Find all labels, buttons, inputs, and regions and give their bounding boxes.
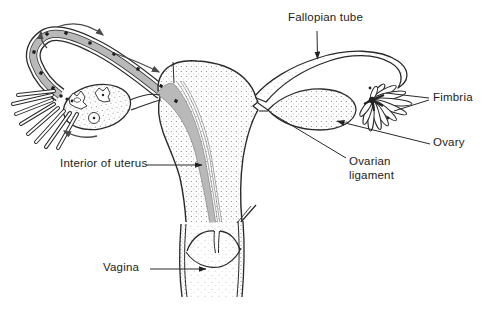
ovarian-ligament xyxy=(258,103,268,111)
cut-edge xyxy=(241,205,256,222)
label-interior-of-uterus: Interior of uterus xyxy=(60,157,147,171)
leader-ovary xyxy=(337,121,430,144)
label-fallopian-tube: Fallopian tube xyxy=(288,11,363,25)
anatomy-figure: Fallopian tube Fimbria Ovary Ovarian lig… xyxy=(0,0,487,312)
fimbria-left xyxy=(13,91,77,148)
fimbria-right xyxy=(358,82,412,131)
label-ovarian-ligament: Ovarian ligament xyxy=(349,155,394,182)
diagram-artwork xyxy=(0,0,487,312)
leader-fallopian-tube xyxy=(317,31,318,59)
label-fimbria: Fimbria xyxy=(433,91,473,105)
label-vagina: Vagina xyxy=(103,261,139,275)
label-ovary: Ovary xyxy=(433,136,465,150)
